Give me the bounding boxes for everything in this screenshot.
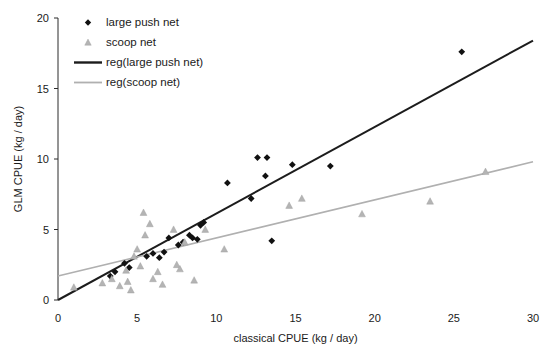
data-point-scoop-net (202, 226, 209, 232)
legend-marker-triangle-icon (85, 39, 91, 45)
legend-label: reg(large push net) (106, 56, 203, 68)
x-axis-title: classical CPUE (kg / day) (233, 332, 357, 344)
scatter-plot: 05101520051015202530classical CPUE (kg /… (0, 0, 554, 349)
axes-layer (54, 18, 58, 300)
data-point-scoop-net (70, 284, 77, 290)
y-tick-label: 5 (43, 224, 49, 236)
x-tick-label: 25 (448, 312, 460, 324)
x-tick-label: 10 (210, 312, 222, 324)
data-point-scoop-net (116, 282, 123, 288)
data-point-scoop-net (298, 195, 305, 201)
x-tick-label: 20 (369, 312, 381, 324)
data-point-scoop-net (137, 263, 144, 269)
data-point-scoop-net (134, 246, 141, 252)
data-point-scoop-net (221, 246, 228, 252)
legend-label: scoop net (106, 36, 157, 48)
y-tick-label: 15 (37, 83, 49, 95)
legend-label: large push net (106, 16, 180, 28)
y-tick-label: 10 (37, 153, 49, 165)
x-tick-label: 30 (527, 312, 539, 324)
data-point-scoop-net (124, 278, 131, 284)
legend-marker-diamond-icon (85, 19, 91, 25)
data-point-scoop-net (286, 202, 293, 208)
data-point-large-push-net (262, 173, 269, 180)
data-point-scoop-net (159, 281, 166, 287)
data-point-large-push-net (289, 161, 296, 168)
data-point-scoop-net (99, 279, 106, 285)
y-tick-label: 20 (37, 12, 49, 24)
data-point-scoop-net (482, 168, 489, 174)
y-tick-label: 0 (43, 294, 49, 306)
data-point-scoop-net (427, 198, 434, 204)
chart-canvas: 05101520051015202530classical CPUE (kg /… (0, 0, 554, 349)
data-point-large-push-net (458, 48, 465, 55)
y-axis-title: GLM CPUE (kg / day) (12, 106, 24, 212)
data-point-scoop-net (150, 275, 157, 281)
data-point-scoop-net (140, 209, 147, 215)
data-point-large-push-net (264, 154, 271, 161)
data-point-scoop-net (142, 232, 149, 238)
data-point-scoop-net (131, 253, 138, 259)
x-tick-label: 5 (134, 312, 140, 324)
x-tick-label: 15 (289, 312, 301, 324)
regression-line-scoop-net (58, 162, 533, 276)
data-point-scoop-net (191, 277, 198, 283)
chart-legend: large push netscoop netreg(large push ne… (74, 16, 203, 88)
legend-label: reg(scoop net) (106, 76, 180, 88)
data-point-large-push-net (156, 254, 163, 261)
data-point-large-push-net (224, 180, 231, 187)
data-point-scoop-net (170, 226, 177, 232)
data-point-scoop-net (154, 268, 161, 274)
data-point-large-push-net (150, 250, 157, 257)
data-point-scoop-net (127, 287, 134, 293)
data-point-large-push-net (254, 154, 261, 161)
data-point-large-push-net (327, 163, 334, 170)
data-point-large-push-net (268, 237, 275, 244)
data-point-scoop-net (146, 220, 153, 226)
data-point-scoop-net (359, 210, 366, 216)
x-tick-label: 0 (55, 312, 61, 324)
